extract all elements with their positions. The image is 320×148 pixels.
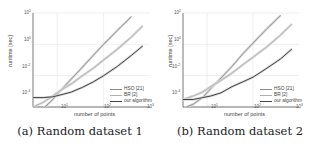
y-tick: 10-2 [172, 64, 180, 69]
y-tick: 102 [24, 10, 31, 15]
panel-a: runtime [sec] number of points 102 100 1… [0, 0, 160, 148]
caption-a: (a) Random dataset 1 [0, 124, 160, 138]
y-tick: 10-2 [22, 64, 30, 69]
x-tick: 102 [254, 104, 261, 109]
x-tick: 103 [147, 104, 154, 109]
legend: HSO [21] BR [2] our algorithm [260, 86, 302, 105]
legend-swatch [260, 101, 272, 102]
legend-item-ours: our algorithm [110, 98, 152, 104]
y-tick: 100 [24, 37, 31, 42]
x-tick: 101 [61, 104, 68, 109]
legend-swatch [110, 101, 122, 102]
legend-item-ours: our algorithm [260, 98, 302, 104]
legend-swatch [110, 95, 122, 96]
y-axis-label: runtime [sec] [7, 35, 13, 66]
y-tick: 10-4 [172, 90, 180, 95]
legend-swatch [110, 89, 122, 90]
y-tick: 100 [174, 37, 181, 42]
x-axis-label: number of points [74, 111, 115, 117]
panel-b: runtime [sec] number of points 102 100 1… [160, 0, 320, 148]
x-tick: 101 [211, 104, 218, 109]
x-tick: 103 [296, 104, 303, 109]
legend-swatch [260, 95, 272, 96]
y-tick: 10-4 [22, 90, 30, 95]
y-axis-label: runtime [sec] [167, 35, 173, 66]
legend: HSO [21] BR [2] our algorithm [110, 86, 152, 105]
caption-b: (b) Random dataset 2 [160, 124, 320, 138]
x-tick: 102 [104, 104, 111, 109]
y-tick: 102 [174, 10, 181, 15]
legend-swatch [260, 89, 272, 90]
x-axis-label: number of points [224, 111, 265, 117]
